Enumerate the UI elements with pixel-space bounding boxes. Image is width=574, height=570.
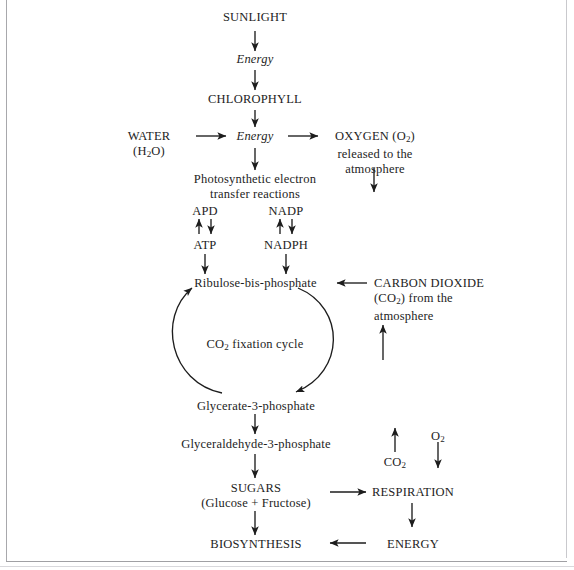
sugars-line1: SUGARS	[183, 481, 329, 496]
co2-line2: (CO2) from the	[374, 291, 514, 309]
node-co2-fixation-cycle-label: CO2 fixation cycle	[195, 337, 315, 355]
node-sunlight: SUNLIGHT	[205, 10, 305, 25]
node-nadph: NADPH	[256, 238, 316, 253]
pser-line1: Photosynthetic electron	[175, 172, 335, 187]
node-energy-mid: Energy	[217, 129, 293, 144]
node-oxygen-line2: released to the	[320, 147, 430, 162]
node-nadp: NADP	[258, 204, 314, 219]
diagram-canvas: SUNLIGHT Energy CHLOROPHYLL WATER (H2O) …	[0, 0, 574, 570]
co2-line1: CARBON DIOXIDE	[374, 276, 514, 291]
node-carbon-dioxide: CARBON DIOXIDE (CO2) from the atmosphere	[374, 276, 514, 324]
node-biosynthesis: BIOSYNTHESIS	[198, 537, 314, 552]
node-energy-bottom: ENERGY	[374, 537, 452, 552]
node-atp: ATP	[180, 238, 230, 253]
node-o2-respiration: O2	[420, 429, 456, 447]
sugars-line2: (Glucose + Fructose)	[183, 496, 329, 511]
node-oxygen-line3: atmosphere	[320, 162, 430, 177]
pser-line2: transfer reactions	[175, 187, 335, 202]
node-oxygen-line1: OXYGEN (O2)	[320, 129, 430, 147]
node-water: WATER (H2O)	[108, 129, 190, 162]
page-frame-right	[566, 0, 567, 558]
node-glycerate-3-phosphate: Glycerate-3-phosphate	[182, 399, 330, 414]
node-respiration: RESPIRATION	[367, 485, 459, 500]
node-energy-top: Energy	[215, 52, 295, 67]
node-photosynthetic-electron-transfer-reactions: Photosynthetic electron transfer reactio…	[175, 172, 335, 202]
node-chlorophyll: CHLOROPHYLL	[195, 92, 315, 107]
node-ribulose-bis-phosphate: Ribulose-bis-phosphate	[178, 276, 333, 291]
node-co2-respiration: CO2	[375, 455, 415, 473]
co2-line3: atmosphere	[374, 309, 514, 324]
page-frame-bottom-shadow	[0, 566, 574, 567]
node-glyceraldehyde-3-phosphate: Glyceraldehyde-3-phosphate	[163, 437, 349, 452]
node-water-line1: WATER	[108, 129, 190, 144]
page-frame-left	[6, 0, 7, 562]
node-sugars: SUGARS (Glucose + Fructose)	[183, 481, 329, 511]
node-oxygen: OXYGEN (O2) released to the atmosphere	[320, 129, 430, 177]
page-frame-bottom	[6, 561, 567, 562]
node-water-line2: (H2O)	[108, 144, 190, 162]
node-apd: APD	[180, 204, 230, 219]
